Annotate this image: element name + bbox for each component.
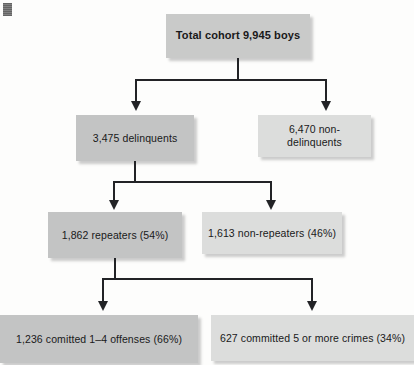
connector-stem-level2 [134, 161, 136, 182]
node-repeaters: 1,862 repeaters (54%) [48, 212, 182, 258]
node-total-cohort: Total cohort 9,945 boys [166, 14, 310, 58]
connector-stem-level3 [114, 258, 116, 279]
node-non-delinquents-label: 6,470 non-delinquents [262, 123, 367, 148]
connector-drop-nondelinquent [325, 79, 327, 103]
connector-drop-repeaters [113, 181, 115, 202]
node-delinquents-label: 3,475 delinquents [93, 132, 178, 145]
connector-bar-level1 [135, 79, 327, 81]
node-non-delinquents: 6,470 non-delinquents [258, 115, 371, 157]
node-committed-5-or-more-crimes: 627 committed 5 or more crimes (34%) [211, 315, 414, 361]
node-committed-5-or-more-crimes-label: 627 committed 5 or more crimes (34%) [220, 332, 405, 345]
scan-artifact [3, 3, 12, 16]
arrow-head-offenses [98, 301, 108, 311]
arrow-head-repeaters [109, 200, 119, 210]
node-delinquents: 3,475 delinquents [76, 115, 194, 161]
node-repeaters-label: 1,862 repeaters (54%) [62, 229, 169, 242]
flowchart-figure: Total cohort 9,945 boys 3,475 delinquent… [0, 0, 414, 365]
connector-drop-offenses [102, 278, 104, 303]
connector-bar-level3 [102, 278, 313, 280]
connector-bar-level2 [113, 181, 272, 183]
node-non-repeaters: 1,613 non-repeaters (46%) [202, 212, 342, 254]
connector-drop-crimes [311, 278, 313, 303]
arrow-head-delinquent [131, 101, 141, 111]
node-non-repeaters-label: 1,613 non-repeaters (46%) [208, 227, 336, 240]
node-total-cohort-label: Total cohort 9,945 boys [176, 29, 300, 42]
arrow-head-nondelinquent [321, 101, 331, 111]
node-committed-1-4-offenses: 1,236 comitted 1–4 offenses (66%) [0, 315, 198, 363]
node-committed-1-4-offenses-label: 1,236 comitted 1–4 offenses (66%) [16, 333, 182, 346]
connector-stem-level1 [237, 58, 239, 80]
connector-drop-delinquent [135, 79, 137, 103]
connector-drop-non-repeaters [270, 181, 272, 202]
arrow-head-crimes [307, 301, 317, 311]
arrow-head-non-repeaters [266, 200, 276, 210]
